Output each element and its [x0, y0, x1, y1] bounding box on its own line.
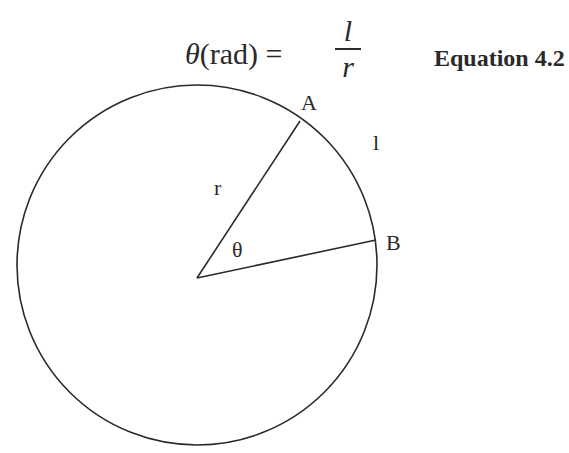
radius-label: r — [214, 175, 221, 201]
arc-length-label: l — [373, 130, 379, 156]
angle-label: θ — [232, 237, 243, 263]
circle-diagram — [0, 0, 569, 453]
point-a-label: A — [301, 90, 317, 116]
radius-line-b — [197, 240, 376, 278]
radius-line-a — [197, 121, 300, 278]
circle-outline — [17, 85, 377, 445]
point-b-label: B — [386, 230, 401, 256]
